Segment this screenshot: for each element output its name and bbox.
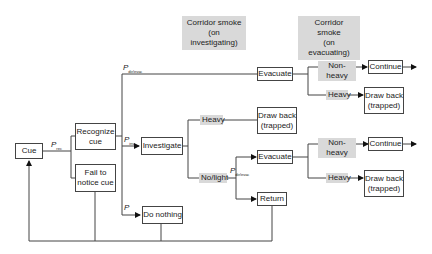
node-drawback-top: Draw back (trapped)	[364, 87, 404, 114]
node-continue-top: Continue	[368, 60, 403, 74]
header-line-1: Corridor smoke	[186, 18, 242, 28]
node-evacuate-low: Evacuate	[257, 150, 293, 164]
condition-nonheavy-low: Non-heavy	[318, 138, 356, 158]
prob-dirievac-low: Pdir/evac	[230, 167, 249, 179]
condition-heavy-low: Heavy	[326, 173, 348, 183]
label-line-1: Draw back	[365, 91, 403, 101]
header-corridor-smoke-investigating: Corridor smoke (on investigating)	[182, 16, 246, 50]
label-line-1: Fail to	[85, 168, 107, 178]
node-cue: Cue	[15, 143, 43, 159]
node-drawback-mid: Draw back (trapped)	[257, 107, 297, 134]
prob-subscript: dir/evac	[235, 172, 249, 177]
prob-subscript: dir/evac	[128, 69, 142, 74]
label-line-2: notice cue	[77, 178, 113, 188]
prob-inv: Pinv	[124, 136, 134, 148]
label-line-2: (trapped)	[368, 101, 400, 111]
node-drawback-low: Draw back (trapped)	[364, 170, 404, 197]
header-line-2: (on investigating)	[186, 28, 242, 48]
prob-subscript: inv	[129, 141, 134, 146]
prob-dirievac-top: Pdir/evac	[123, 64, 142, 76]
prob-symbol: P	[124, 203, 129, 212]
node-continue-low: Continue	[368, 137, 403, 151]
prob-rec: Prec	[51, 141, 62, 153]
label-line-2: (trapped)	[368, 184, 400, 194]
node-investigate: Investigate	[141, 137, 183, 155]
label-line-2: (trapped)	[261, 121, 293, 131]
node-evacuate-top: Evacuate	[257, 67, 293, 81]
header-corridor-smoke-evacuating: Corridor smoke (on evacuating)	[298, 16, 360, 60]
node-return: Return	[257, 192, 287, 206]
label-line-1: Draw back	[258, 111, 296, 121]
prob-none: P	[124, 204, 129, 212]
condition-nonheavy-top: Non-heavy	[318, 61, 356, 81]
label-line-1: Recognize	[77, 127, 115, 137]
node-fail-to-notice-cue: Fail to notice cue	[75, 164, 116, 192]
node-do-nothing: Do nothing	[142, 206, 183, 224]
condition-nolight: No/light	[199, 173, 227, 183]
prob-subscript: rec	[56, 146, 62, 151]
label-line-1: Draw back	[365, 174, 403, 184]
header-line-2: (on evacuating)	[302, 38, 356, 58]
node-recognize-cue: Recognize cue	[75, 123, 116, 150]
label-line-2: cue	[89, 137, 102, 147]
condition-heavy-mid: Heavy	[200, 115, 223, 125]
condition-heavy-top: Heavy	[326, 90, 348, 100]
header-line-1: Corridor smoke	[302, 18, 356, 38]
